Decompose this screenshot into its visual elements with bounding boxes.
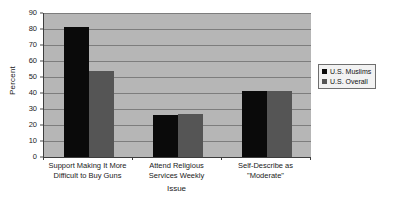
x-tick-mark xyxy=(310,157,311,160)
legend-label: U.S. Overall xyxy=(330,78,368,85)
bar[interactable] xyxy=(242,91,267,157)
y-tick-label: 40 xyxy=(29,89,37,97)
bar-chart: Percent 9080706050403020100 Support Maki… xyxy=(0,0,398,213)
legend-entry[interactable]: U.S. Overall xyxy=(322,78,371,85)
y-axis-ticks: 9080706050403020100 xyxy=(20,13,40,157)
x-axis-title: Issue xyxy=(43,184,310,193)
legend: U.S. MuslimsU.S. Overall xyxy=(318,64,376,89)
x-tick-mark xyxy=(221,157,222,160)
x-axis-label-line: Difficult to Buy Guns xyxy=(44,171,131,181)
x-axis-label-line: Attend Religious xyxy=(133,161,220,171)
y-tick-label: 90 xyxy=(29,9,37,17)
bar[interactable] xyxy=(178,114,203,157)
bar-group xyxy=(222,13,311,157)
y-axis-title-text: Percent xyxy=(8,66,17,95)
bar-groups xyxy=(44,13,311,157)
x-axis-label-line: "Moderate" xyxy=(222,171,309,181)
bar-group xyxy=(133,13,222,157)
y-tick-label: 30 xyxy=(29,105,37,113)
x-tick-mark xyxy=(43,157,44,160)
legend-entry[interactable]: U.S. Muslims xyxy=(322,68,371,75)
bar-group xyxy=(44,13,133,157)
legend-swatch-icon xyxy=(322,69,327,74)
plot-area xyxy=(43,13,311,158)
bar[interactable] xyxy=(267,91,292,157)
x-axis-label: Attend ReligiousServices Weekly xyxy=(132,161,221,181)
y-tick-label: 20 xyxy=(29,121,37,129)
y-tick-label: 50 xyxy=(29,73,37,81)
y-tick-label: 0 xyxy=(33,153,37,161)
bar[interactable] xyxy=(153,115,178,157)
x-tick-mark xyxy=(132,157,133,160)
bar[interactable] xyxy=(64,27,89,157)
x-axis-label-line: Self-Describe as xyxy=(222,161,309,171)
legend-label: U.S. Muslims xyxy=(330,68,371,75)
x-axis-label-line: Support Making It More xyxy=(44,161,131,171)
y-tick-label: 60 xyxy=(29,57,37,65)
x-axis-label-line: Services Weekly xyxy=(133,171,220,181)
x-axis-label: Self-Describe as"Moderate" xyxy=(221,161,310,181)
y-tick-label: 70 xyxy=(29,41,37,49)
y-tick-label: 10 xyxy=(29,137,37,145)
bar[interactable] xyxy=(89,71,114,157)
y-tick-label: 80 xyxy=(29,25,37,33)
y-axis-title: Percent xyxy=(4,0,20,160)
legend-swatch-icon xyxy=(322,79,327,84)
x-axis-label: Support Making It MoreDifficult to Buy G… xyxy=(43,161,132,181)
x-axis-labels: Support Making It MoreDifficult to Buy G… xyxy=(43,161,310,181)
